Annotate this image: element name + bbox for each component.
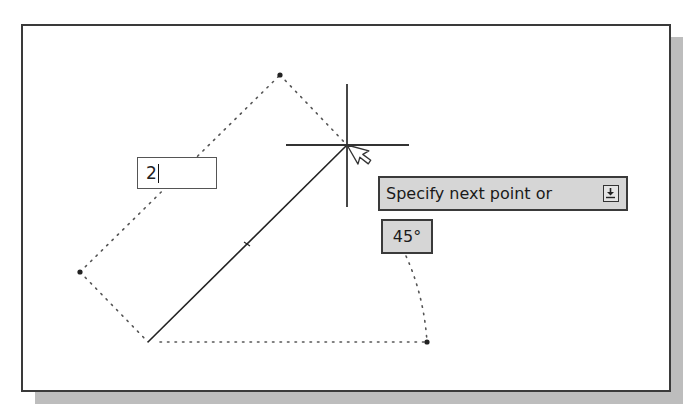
- angle-arc: [406, 256, 427, 342]
- angle-value-display[interactable]: 45°: [381, 219, 433, 254]
- dimension-lines: [80, 75, 427, 342]
- command-prompt-tooltip: Specify next point or: [378, 176, 628, 211]
- point-markers: [77, 72, 429, 344]
- text-caret: [158, 164, 160, 183]
- grip-point-top: [277, 72, 282, 77]
- dimension-extension-line-bottom: [80, 272, 148, 342]
- dimension-extension-line-top: [280, 75, 347, 145]
- dynamic-input-length-field[interactable]: 2: [137, 157, 217, 189]
- angle-value: 45°: [393, 227, 421, 246]
- options-dropdown-button[interactable]: [603, 185, 619, 202]
- dynamic-input-value: 2: [146, 163, 157, 183]
- grip-point-left: [77, 269, 82, 274]
- prompt-text: Specify next point or: [386, 184, 603, 203]
- grip-point-right: [424, 339, 429, 344]
- down-arrow-options-icon: [604, 186, 617, 200]
- arrow-pointer-icon: [347, 137, 374, 168]
